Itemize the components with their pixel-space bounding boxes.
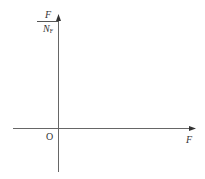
denominator-text: N — [43, 23, 50, 34]
axes-svg — [0, 0, 205, 179]
x-axis-label: F — [186, 134, 192, 145]
x-axis-arrow-icon — [189, 126, 196, 131]
fraction-bar — [37, 21, 59, 22]
origin-label: O — [46, 131, 53, 142]
y-axis-label-denominator: NF — [37, 23, 59, 37]
y-axis-label-numerator: F — [37, 9, 59, 20]
diagram-canvas: F NF O F — [0, 0, 205, 179]
denominator-subscript: F — [50, 28, 53, 34]
y-axis-label: F NF — [37, 9, 59, 37]
